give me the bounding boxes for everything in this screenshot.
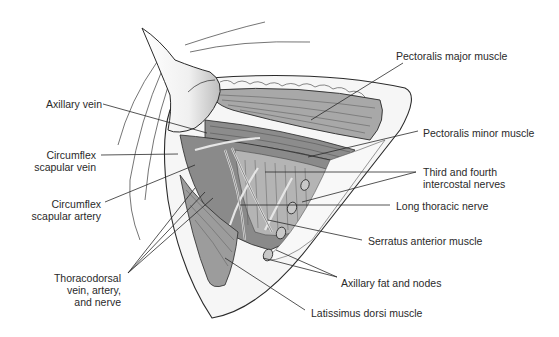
- label-text: scapular vein: [34, 161, 96, 173]
- label-axillary-vein: Axillary vein: [46, 98, 102, 110]
- label-circumflex-scapular-artery: Circumflex scapular artery: [32, 198, 101, 222]
- label-text: Latissimus dorsi muscle: [311, 307, 422, 319]
- label-pectoralis-minor: Pectoralis minor muscle: [423, 127, 534, 139]
- label-text: intercostal nerves: [423, 178, 505, 190]
- label-text: Third and fourth: [423, 166, 505, 178]
- label-text: Thoracodorsal: [54, 272, 121, 284]
- label-serratus-anterior: Serratus anterior muscle: [368, 235, 482, 247]
- label-text: Pectoralis minor muscle: [423, 127, 534, 139]
- label-axillary-fat-nodes: Axillary fat and nodes: [341, 277, 441, 289]
- label-text: Long thoracic nerve: [396, 200, 488, 212]
- label-thoracodorsal: Thoracodorsal vein, artery, and nerve: [54, 272, 121, 308]
- arm-shape: [142, 28, 220, 132]
- label-circumflex-scapular-vein: Circumflex scapular vein: [34, 149, 96, 173]
- label-text: Axillary fat and nodes: [341, 277, 441, 289]
- label-text: vein, artery,: [54, 284, 121, 296]
- label-pectoralis-major: Pectoralis major muscle: [396, 50, 507, 62]
- label-text: and nerve: [54, 296, 121, 308]
- label-long-thoracic-nerve: Long thoracic nerve: [396, 200, 488, 212]
- label-intercostal-nerves: Third and fourth intercostal nerves: [423, 166, 505, 190]
- label-text: Pectoralis major muscle: [396, 50, 507, 62]
- label-text: Circumflex: [34, 149, 96, 161]
- label-text: scapular artery: [32, 210, 101, 222]
- label-text: Serratus anterior muscle: [368, 235, 482, 247]
- label-text: Circumflex: [32, 198, 101, 210]
- label-text: Axillary vein: [46, 98, 102, 110]
- label-latissimus-dorsi: Latissimus dorsi muscle: [311, 307, 422, 319]
